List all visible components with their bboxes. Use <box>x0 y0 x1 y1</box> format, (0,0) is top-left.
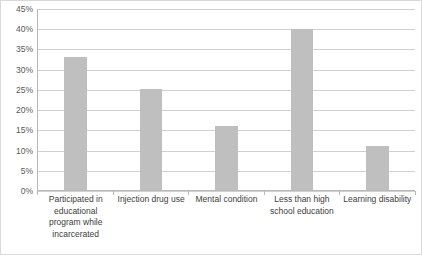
y-axis-tick-label: 15% <box>16 126 33 135</box>
bar[interactable] <box>366 146 389 190</box>
x-axis-line <box>37 190 415 191</box>
bar-slot <box>340 9 415 190</box>
bar-slot <box>264 9 339 190</box>
x-axis-category-labels: Participated in educational program whil… <box>38 194 415 252</box>
bar-slot <box>38 9 113 190</box>
bar[interactable] <box>291 29 314 190</box>
plot-area: 0%5%10%15%20%25%30%35%40%45% <box>37 9 415 191</box>
y-axis-tick-label: 10% <box>16 146 33 155</box>
gridline: 0% <box>37 191 415 192</box>
bar-slot <box>189 9 264 190</box>
bar[interactable] <box>140 89 163 190</box>
y-axis-tick-label: 30% <box>16 65 33 74</box>
bar[interactable] <box>215 126 238 190</box>
x-axis-category-label: Mental condition <box>189 194 264 206</box>
x-axis-tick <box>415 191 416 195</box>
bars-group <box>38 9 415 190</box>
y-axis-tick-label: 20% <box>16 106 33 115</box>
bar-chart: 0%5%10%15%20%25%30%35%40%45% Participate… <box>0 0 422 255</box>
x-axis-category-label: Less than high school education <box>264 194 339 217</box>
x-axis-category-label: Injection drug use <box>113 194 188 206</box>
y-axis-tick-label: 0% <box>21 187 33 196</box>
y-axis-tick-label: 40% <box>16 25 33 34</box>
x-axis-category-label: Participated in educational program whil… <box>38 194 113 240</box>
bar[interactable] <box>64 57 87 190</box>
y-axis-tick-label: 35% <box>16 45 33 54</box>
y-axis-tick-label: 45% <box>16 5 33 14</box>
bar-slot <box>113 9 188 190</box>
y-axis-tick-label: 25% <box>16 86 33 95</box>
x-axis-category-label: Learning disability <box>340 194 415 206</box>
y-axis-tick-label: 5% <box>21 167 33 176</box>
